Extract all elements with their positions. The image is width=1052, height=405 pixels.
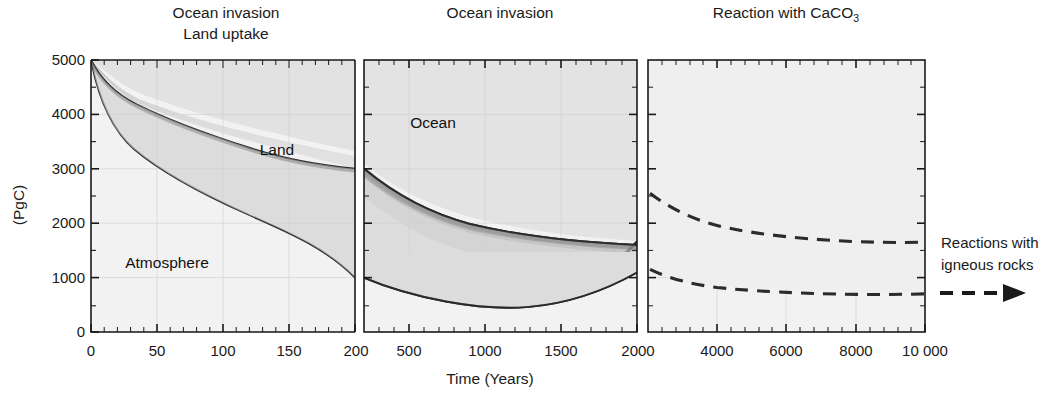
panel2-xtick-2000: 2000: [621, 342, 654, 359]
panel1-ytick-5000: 5000: [52, 51, 85, 68]
panel3-xtick-8000: 8000: [839, 342, 872, 359]
panel1-ytick-2000: 2000: [52, 214, 85, 231]
panel2-title: Ocean invasion: [447, 4, 554, 21]
panel1-ytick-4000: 4000: [52, 105, 85, 122]
carbon-fate-figure: 0 1000 2000 3000 4000 5000 0 50 100 150 …: [0, 0, 1052, 405]
annotation-line1: Reactions with: [941, 234, 1039, 251]
panel3-region-shading: [648, 60, 925, 294]
panel1-xtick-200: 200: [343, 342, 368, 359]
panel1-title-line2: Land uptake: [183, 25, 268, 42]
panel3-xtick-6000: 6000: [769, 342, 802, 359]
panel1-region-label-atmosphere: Atmosphere: [125, 254, 209, 271]
panel2-xtick-500: 500: [396, 342, 421, 359]
panel1-ytick-0: 0: [77, 323, 85, 340]
panel1-title-line1: Ocean invasion: [173, 4, 280, 21]
panel1-xtick-50: 50: [149, 342, 166, 359]
panel1-ytick-3000: 3000: [52, 160, 85, 177]
panel2-xtick-1000: 1000: [468, 342, 501, 359]
panel3-title-subscript: 3: [853, 12, 859, 24]
panel1-xtick-100: 100: [210, 342, 235, 359]
annotation-line2: igneous rocks: [941, 256, 1034, 273]
x-axis-label: Time (Years): [446, 370, 534, 387]
panel2-region-label-ocean: Ocean: [410, 114, 456, 131]
panel3-xtick-4000: 4000: [700, 342, 733, 359]
panel1-ytick-1000: 1000: [52, 269, 85, 286]
panel2-xtick-1500: 1500: [544, 342, 577, 359]
panel3-xtick-10000: 10 000: [902, 342, 948, 359]
panel3-title-main: Reaction with CaCO: [713, 4, 853, 21]
y-axis-label: (PgC): [10, 185, 27, 225]
panel3-data: [648, 60, 925, 294]
panel1-xtick-150: 150: [276, 342, 301, 359]
panel1-region-label-land: Land: [260, 141, 294, 158]
panel1-xtick-0: 0: [87, 342, 95, 359]
